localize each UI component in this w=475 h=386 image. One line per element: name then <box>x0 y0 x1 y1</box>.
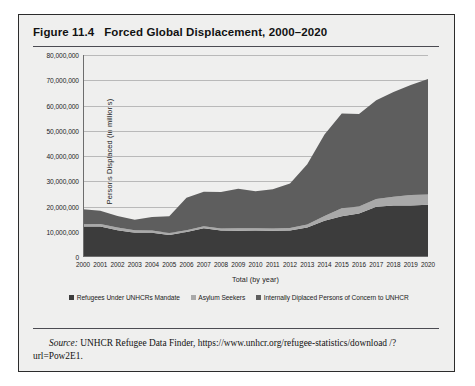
source-divider <box>33 328 439 329</box>
x-axis-tick-label: 2010 <box>249 261 263 268</box>
x-axis-tick-label: 2015 <box>335 261 349 268</box>
y-axis-tick-label: 20,000,000 <box>46 203 79 210</box>
x-axis-tick-label: 2016 <box>352 261 366 268</box>
figure-box: Figure 11.4Forced Global Displacement, 2… <box>18 14 455 372</box>
source-note: Source: UNHCR Refugee Data Finder, https… <box>33 337 439 362</box>
x-axis-tick-labels: 2000200120022003200420052006200720082009… <box>83 261 428 272</box>
legend-item: Refugees Under UNHCRs Mandate <box>69 294 180 301</box>
x-axis-tick-label: 2000 <box>76 261 90 268</box>
x-axis-tick-label: 2006 <box>180 261 194 268</box>
x-axis-tick-label: 2011 <box>266 261 279 268</box>
x-axis-tick-label: 2013 <box>300 261 314 268</box>
legend-swatch-icon <box>69 295 74 300</box>
y-axis-tick-label: 10,000,000 <box>46 228 79 235</box>
x-axis-tick-label: 2009 <box>231 261 245 268</box>
chart-legend: Refugees Under UNHCRs MandateAsylum Seek… <box>37 294 441 301</box>
x-axis-tick-label: 2002 <box>111 261 125 268</box>
x-axis-tick-label: 2001 <box>93 261 107 268</box>
legend-swatch-icon <box>256 295 261 300</box>
y-axis-tick-label: 60,000,000 <box>46 102 79 109</box>
x-axis-line <box>83 256 428 257</box>
y-axis-tick-label: 80,000,000 <box>46 52 79 59</box>
x-axis-tick-label: 2014 <box>318 261 332 268</box>
source-text: UNHCR Refugee Data Finder, https://www.u… <box>33 338 396 361</box>
x-axis-tick-label: 2004 <box>145 261 159 268</box>
source-label: Source: <box>49 338 78 348</box>
y-axis-line <box>83 55 84 257</box>
x-axis-tick-label: 2019 <box>404 261 418 268</box>
chart-area: Persons Displaced (in millions) 010,000,… <box>33 51 441 313</box>
legend-label: Refugees Under UNHCRs Mandate <box>77 294 180 301</box>
x-axis-tick-label: 2018 <box>387 261 401 268</box>
x-axis-tick-label: 2012 <box>283 261 297 268</box>
y-axis-tick-label: 50,000,000 <box>46 127 79 134</box>
y-axis-tick-label: 0 <box>75 254 79 261</box>
stacked-area-series <box>83 55 428 257</box>
legend-label: Asylum Seekers <box>198 294 245 301</box>
y-axis-tick-label: 30,000,000 <box>46 178 79 185</box>
x-axis-title: Total (by year) <box>83 275 428 284</box>
x-axis-tick-label: 2008 <box>214 261 228 268</box>
y-axis-tick-label: 40,000,000 <box>46 153 79 160</box>
x-axis-tick-label: 2003 <box>128 261 142 268</box>
legend-item: Asylum Seekers <box>191 294 245 301</box>
legend-label: Internally Diplaced Persons of Concern t… <box>264 294 409 301</box>
figure-title: Figure 11.4Forced Global Displacement, 2… <box>33 26 433 38</box>
x-axis-tick-label: 2007 <box>197 261 211 268</box>
legend-swatch-icon <box>191 295 196 300</box>
title-divider <box>33 46 439 47</box>
x-axis-tick-label: 2017 <box>369 261 383 268</box>
plot-area: 010,000,00020,000,00030,000,00040,000,00… <box>83 55 428 257</box>
figure-title-text: Forced Global Displacement, 2000–2020 <box>104 26 327 38</box>
legend-item: Internally Diplaced Persons of Concern t… <box>256 294 408 301</box>
figure-number: Figure 11.4 <box>33 26 94 38</box>
x-axis-tick-label: 2020 <box>421 261 435 268</box>
x-axis-tick-label: 2005 <box>162 261 176 268</box>
y-axis-tick-label: 70,000,000 <box>46 77 79 84</box>
